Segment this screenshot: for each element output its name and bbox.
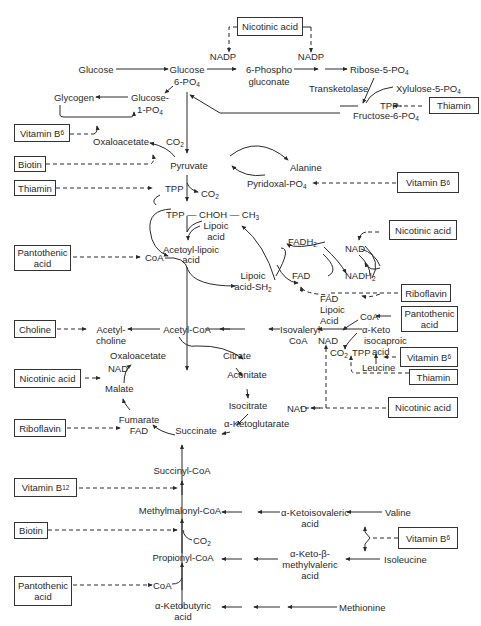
malate: Malate [105,383,134,394]
vitamin-label: Riboflavin [405,288,447,299]
vitamin-label: Nicotinic acid [395,402,451,413]
vitamin-box-vitamin-b6-bcaa: Vitamin B6 [398,527,458,549]
pyruvate: Pyruvate [170,160,208,171]
vitamin-label: Pantothenic acid [404,308,454,330]
text: Fructose-6-PO [353,110,415,121]
lipoic-acid: Lipoic [204,220,229,231]
methylmalonyl-coa: Methylmalonyl-CoA [139,505,221,516]
alpha-keto-beta-methylvaleric-acid-line2: methylvaleric [282,559,337,570]
subscript: 4 [303,183,307,190]
vitamin-box-nicotinic-acid-top: Nicotinic acid [237,17,303,36]
tpp-pdh: TPP [165,183,183,194]
text: Xylulose-5-PO [396,83,457,94]
citrate: Citrate [223,350,251,361]
succinyl-coa: Succinyl-CoA [153,465,210,476]
vitamin-box-vitamin-b6-leucine: Vitamin B6 [400,347,458,367]
vitamin-box-vitamin-b6-oaa: Vitamin B6 [14,124,70,142]
vitamin-label: Riboflavin [19,423,61,434]
coa-pdh: CoA [145,252,163,263]
vitamin-label: Nicotinic acid [242,21,298,32]
isovaleryl-coa: Isovaleryl- [280,324,323,335]
fad-pdh: FAD [292,270,310,281]
vitamin-box-biotin-pyruvate: Biotin [14,156,46,172]
valine: Valine [385,507,411,518]
acetyl-coa: Acetyl-CoA [163,324,211,335]
subscript: 2 [207,540,211,547]
vitamin-label: Vitamin B [20,128,60,139]
subscript: 2 [180,141,184,148]
vitamin-box-nicotinic-acid-leucine: Nicotinic acid [388,397,458,418]
oxaloacetate-tca: Oxaloacetate [110,350,166,361]
vitamin-box-thiamin-leucine: Thiamin [409,369,458,385]
vitamin-box-nicotinic-acid-tca: Nicotinic acid [14,369,81,388]
lipoic-acid-sh2: Lipoic [241,270,266,281]
glucose-1-phosphate-line2: 1-PO4 [137,104,163,115]
alpha-ketoisovaleric-acid-line2: acid [301,518,318,529]
transketolase: Transketolase [309,83,368,94]
glucose-6-phosphate-line2: 6-PO4 [174,76,200,87]
alpha-keto-beta-methylvaleric-acid: α-Keto-β- [290,548,330,559]
vitamin-box-biotin-propionyl: Biotin [14,522,48,539]
coa-propionyl: CoA [153,580,171,591]
tpp-leucine: TPP [352,347,370,358]
vitamin-label: Vitamin B [406,533,446,544]
phosphogluconate: 6-Phospho [246,64,292,75]
text: CO [166,136,180,147]
vitamin-box-thiamin-pdh: Thiamin [14,180,56,196]
subscript: 2 [268,286,272,293]
text: 1-PO [137,104,159,115]
co2-propionyl: CO2 [193,535,211,546]
text: TPP — CHOH — CH [166,209,256,220]
subscript: 4 [415,115,419,122]
leucine: Leucine [362,362,395,373]
fructose-6-phosphate: Fructose-6-PO4 [353,110,419,121]
vitamin-label: Nicotinic acid [20,373,76,384]
alpha-ketoisovaleric-acid: α-Ketoisovaleric [281,507,349,518]
fad-leucine: FAD [320,293,338,304]
subscript: 2 [215,193,219,200]
text: acid-SH [234,281,268,292]
isocitrate: Isocitrate [229,400,268,411]
aconitate: Aconitate [227,369,267,380]
text: CO [330,347,344,358]
glucose-1-phosphate: Glucose- [131,92,169,103]
ribose-5-phosphate: Ribose-5-PO4 [350,64,409,75]
vitamin-label: Pantothenic acid [18,580,68,602]
acetylcholine: Acetyl- [96,324,125,335]
vitamin-box-pantothenic-acid-pdh: Pantothenic acid [14,245,71,271]
nadp-right: NADP [298,51,324,62]
alpha-keto-beta-methylvaleric-acid-line3: acid [301,570,318,581]
xylulose-5-phosphate: Xylulose-5-PO4 [396,83,461,94]
lipoic-acid-line2: acid [207,231,224,242]
vitamin-label: Thiamin [18,183,52,194]
vitamin-box-pantothenic-acid-leucine: Pantothenic acid [401,306,458,332]
isoleucine: Isoleucine [384,554,427,565]
alanine: Alanine [290,162,322,173]
pyridoxal-phosphate: Pyridoxal-PO4 [247,178,307,189]
vitamin-label: Biotin [19,525,43,536]
co2-pyruvate-carboxylase: CO2 [166,136,184,147]
alpha-ketoisocaproic-acid: α-Keto [362,324,390,335]
vitamin-label: Thiamin [437,100,471,111]
fad-tca: FAD [130,425,148,436]
text: CO [193,535,207,546]
nadp-left: NADP [210,51,236,62]
subscript: 3 [256,214,260,221]
text: FADH [288,236,313,247]
vitamin-box-pantothenic-acid-propionyl: Pantothenic acid [14,576,72,606]
nad-malate: NAD [108,363,128,374]
subscript: 4 [196,81,200,88]
propionyl-coa: Propionyl-CoA [152,552,213,563]
fadh2: FADH2 [288,236,317,247]
vitamin-box-vitamin-b12: Vitamin B12 [14,478,77,497]
alpha-ketoglutarate: α-Ketoglutarate [224,418,289,429]
vitamin-label: Choline [19,324,51,335]
vitamin-box-riboflavin-tca: Riboflavin [14,419,66,437]
succinate: Succinate [175,425,217,436]
coa-leucine: CoA [360,311,378,322]
vitamin-box-vitamin-b6-alanine: Vitamin B6 [397,172,459,193]
text: NADH [345,270,372,281]
vitamin-label: Vitamin B [407,352,447,363]
co2-pdh: CO2 [201,188,219,199]
subscript: 2 [344,352,348,359]
